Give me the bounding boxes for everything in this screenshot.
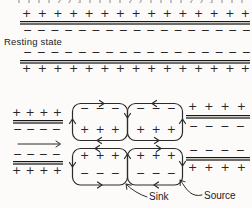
current-arrowhead (155, 138, 160, 144)
current-arrowhead (70, 119, 76, 124)
plus-symbol: + (136, 151, 145, 161)
minus-symbol: − (220, 122, 229, 132)
minus-symbol: − (146, 48, 155, 58)
minus-symbol: − (95, 169, 104, 179)
positive-charge-row: +++ (80, 151, 120, 161)
plus-symbol: + (163, 64, 172, 74)
plus-symbol: + (237, 102, 246, 112)
plus-symbol: + (53, 9, 62, 19)
minus-symbol: − (23, 48, 32, 58)
minus-symbol: − (80, 169, 89, 179)
plus-symbol: + (147, 64, 156, 74)
minus-symbol: − (201, 26, 210, 36)
minus-symbol: − (50, 26, 59, 36)
plus-symbol: + (26, 166, 35, 176)
minus-symbol: − (151, 169, 160, 179)
plus-symbol: + (85, 64, 94, 74)
minus-symbol: − (205, 122, 214, 132)
minus-symbol: − (236, 122, 245, 132)
plus-symbol: + (237, 163, 246, 173)
current-arrowhead (180, 162, 186, 167)
positive-charge-row: ++++ (12, 166, 62, 176)
minus-symbol: − (187, 48, 196, 58)
minus-symbol: − (37, 26, 46, 36)
plus-symbol: + (136, 125, 145, 135)
plus-symbol: + (225, 64, 234, 74)
plus-symbol: + (53, 166, 62, 176)
minus-symbol: − (151, 104, 160, 114)
negative-charge-row: −−−−−−−−−−−−−−−−− (23, 48, 251, 58)
minus-symbol: − (78, 48, 87, 58)
plus-symbol: + (210, 9, 219, 19)
minus-symbol: − (105, 48, 114, 58)
current-arrowhead (98, 182, 103, 188)
plus-symbol: + (116, 9, 125, 19)
plus-symbol: + (53, 108, 62, 118)
plus-symbol: + (39, 166, 48, 176)
minus-symbol: − (228, 48, 237, 58)
current-arrowhead (180, 119, 186, 124)
positive-charge-row: +++ (136, 125, 176, 135)
negative-charge-row: −−−− (13, 150, 61, 160)
minus-symbol: − (160, 26, 169, 36)
negative-charge-row: −−− (136, 104, 176, 114)
minus-symbol: − (26, 125, 35, 135)
minus-symbol: − (136, 169, 145, 179)
negative-charge-row: −−−−−−−−−−−−−−−−− (23, 26, 251, 36)
minus-symbol: − (236, 146, 245, 156)
plus-symbol: + (178, 9, 187, 19)
minus-symbol: − (37, 48, 46, 58)
plus-symbol: + (151, 151, 160, 161)
propagation-direction-arrow (18, 141, 61, 147)
sink-label: Sink (149, 191, 168, 202)
plus-symbol: + (188, 163, 197, 173)
positive-charge-row: ++++ (12, 108, 62, 118)
minus-symbol: − (111, 104, 120, 114)
current-arrowhead (154, 182, 159, 188)
plus-symbol: + (95, 151, 104, 161)
minus-symbol: − (201, 48, 210, 58)
plus-symbol: + (241, 9, 250, 19)
minus-symbol: − (13, 150, 22, 160)
positive-charge-row: +++ (80, 125, 120, 135)
minus-symbol: − (228, 26, 237, 36)
plus-symbol: + (241, 64, 250, 74)
minus-symbol: − (242, 48, 251, 58)
current-arrowhead (70, 163, 76, 168)
minus-symbol: − (105, 26, 114, 36)
plus-symbol: + (69, 64, 78, 74)
plus-symbol: + (178, 64, 187, 74)
minus-symbol: − (39, 150, 48, 160)
plus-symbol: + (100, 64, 109, 74)
plus-symbol: + (22, 64, 31, 74)
minus-symbol: − (91, 26, 100, 36)
positive-charge-row: +++++++++++++++ (22, 9, 250, 19)
plus-symbol: + (194, 9, 203, 19)
current-arrowhead (97, 138, 102, 144)
negative-charge-row: −−−− (189, 146, 245, 156)
minus-symbol: − (214, 48, 223, 58)
minus-symbol: − (119, 48, 128, 58)
minus-symbol: − (146, 26, 155, 36)
minus-symbol: − (95, 104, 104, 114)
minus-symbol: − (52, 150, 61, 160)
minus-symbol: − (52, 125, 61, 135)
sink-pointer-arrow (124, 182, 147, 197)
minus-symbol: − (64, 48, 73, 58)
plus-symbol: + (204, 102, 213, 112)
plus-symbol: + (111, 125, 120, 135)
plus-symbol: + (53, 64, 62, 74)
membrane-line (186, 115, 250, 119)
minus-symbol: − (13, 125, 22, 135)
minus-symbol: − (205, 146, 214, 156)
plus-symbol: + (95, 125, 104, 135)
minus-symbol: − (26, 150, 35, 160)
positive-charge-row: +++++++++++++++ (22, 64, 250, 74)
positive-charge-row: ++++ (188, 163, 246, 173)
plus-symbol: + (12, 108, 21, 118)
current-arrowhead (125, 154, 131, 159)
plus-symbol: + (131, 64, 140, 74)
plus-symbol: + (85, 9, 94, 19)
negative-charge-row: −−− (80, 169, 120, 179)
negative-charge-row: −−− (80, 104, 120, 114)
